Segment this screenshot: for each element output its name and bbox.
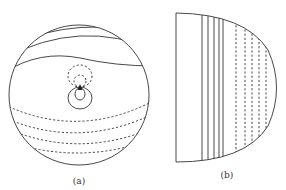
half-disk-boundary [176,13,277,162]
solid-contour [5,36,155,58]
solid-source-loop [68,87,92,109]
panel-a: (a) [5,15,155,186]
panel-a-label: (a) [73,176,85,186]
dashed-source-loop [68,65,92,87]
panel-b: (b) [176,0,277,190]
solid-contour [5,56,155,72]
dashed-contour [5,127,155,144]
dashed-contour [5,100,155,121]
panel-b-label: (b) [221,170,234,180]
figure: (a) (b) [0,0,286,190]
panel-b-contours [202,0,266,190]
dashed-contour [5,113,155,133]
